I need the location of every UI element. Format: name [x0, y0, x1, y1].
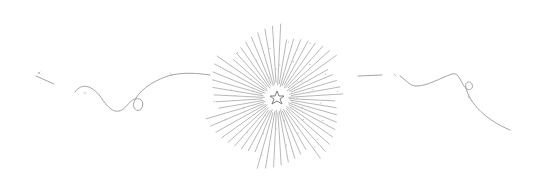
left-flourish [36, 72, 210, 111]
decorative-divider [0, 0, 545, 193]
star-icon [270, 91, 284, 104]
right-flourish [358, 74, 510, 130]
